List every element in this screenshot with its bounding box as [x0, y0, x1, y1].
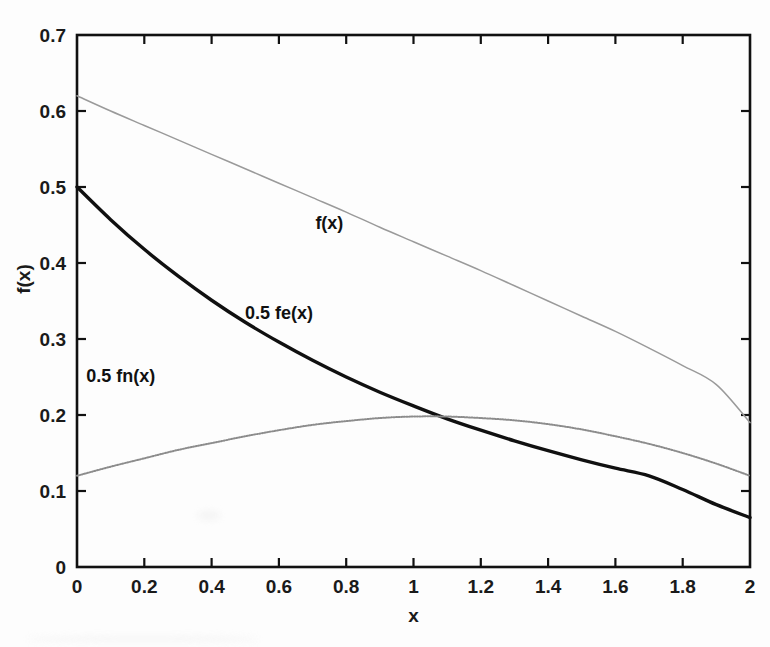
- x-tick-label: 1.6: [602, 576, 628, 597]
- x-tick-label: 0.6: [266, 576, 292, 597]
- curve-0-5-fn-x: [77, 416, 750, 475]
- y-tick-label: 0.7: [40, 25, 66, 46]
- y-tick-label: 0.4: [40, 253, 67, 274]
- x-tick-label: 2: [745, 576, 756, 597]
- x-axis-title: x: [408, 605, 419, 626]
- y-tick-label: 0.3: [40, 329, 66, 350]
- curve-annotations: f(x)0.5 fe(x)0.5 fn(x): [86, 213, 343, 387]
- axis-tick-labels: 00.20.40.60.811.21.41.61.8200.10.20.30.4…: [40, 25, 756, 597]
- x-tick-label: 0.2: [131, 576, 157, 597]
- curve-0-5-fe-x: [77, 187, 750, 518]
- y-tick-label: 0.1: [40, 481, 67, 502]
- x-tick-label: 1: [408, 576, 419, 597]
- axis-ticks: [77, 35, 750, 567]
- annotation-0-5-fe-x: 0.5 fe(x): [245, 303, 313, 323]
- annotation-f-x: f(x): [315, 213, 343, 233]
- y-tick-label: 0.6: [40, 101, 66, 122]
- axis-titles: xf(x): [13, 264, 419, 626]
- x-tick-label: 0.4: [198, 576, 225, 597]
- y-tick-label: 0: [55, 557, 66, 578]
- axes-frame: [77, 35, 750, 567]
- y-axis-title: f(x): [13, 264, 34, 294]
- plot-border: [77, 35, 750, 567]
- x-tick-label: 0: [72, 576, 83, 597]
- chart-plot: 00.20.40.60.811.21.41.61.8200.10.20.30.4…: [0, 0, 770, 647]
- x-tick-label: 1.4: [535, 576, 562, 597]
- annotation-0-5-fn-x: 0.5 fn(x): [86, 366, 155, 386]
- x-tick-label: 0.8: [333, 576, 359, 597]
- y-tick-label: 0.2: [40, 405, 66, 426]
- y-tick-label: 0.5: [40, 177, 67, 198]
- curve-f-x: [77, 96, 750, 423]
- x-tick-label: 1.2: [468, 576, 494, 597]
- figure-canvas: 00.20.40.60.811.21.41.61.8200.10.20.30.4…: [0, 0, 770, 647]
- x-tick-label: 1.8: [669, 576, 695, 597]
- data-curves: [77, 96, 750, 518]
